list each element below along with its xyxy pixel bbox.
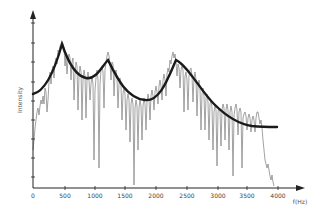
x-axis — [33, 185, 305, 191]
x-tick-label: 3000 — [210, 192, 225, 199]
x-tick-label: 500 — [59, 192, 71, 199]
x-tick-label: 2000 — [148, 192, 163, 199]
x-tick-label: 2500 — [179, 192, 194, 199]
x-tick-label: 0 — [31, 192, 35, 199]
x-axis-label: f(Hz) — [293, 198, 307, 205]
x-tick-label: 1000 — [87, 192, 102, 199]
x-tick-label: 4000 — [270, 192, 285, 199]
spectrum-chart: 0 500 1000 1500 2000 2500 3000 3500 4000… — [0, 0, 323, 213]
y-axis-label: Intensity — [16, 86, 24, 113]
x-tick-label: 1500 — [117, 192, 132, 199]
x-tick-label: 3500 — [239, 192, 254, 199]
x-tick-labels: 0 500 1000 1500 2000 2500 3000 3500 4000 — [31, 192, 286, 199]
y-axis — [30, 10, 36, 188]
